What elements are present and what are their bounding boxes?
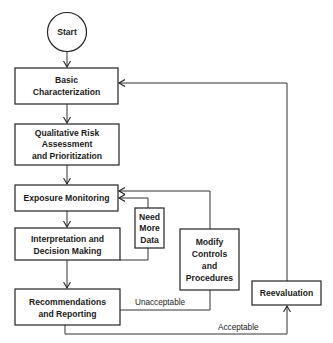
node-qualitative-line-1: Qualitative Risk bbox=[35, 128, 100, 138]
node-interpretation-decision: Interpretation and Decision Making bbox=[15, 228, 120, 260]
node-basic-line-1: Basic bbox=[55, 75, 78, 85]
node-needmore-line-2: More bbox=[139, 223, 160, 233]
node-modify-controls: Modify Controls and Procedures bbox=[180, 229, 239, 290]
node-need-more-data: Need More Data bbox=[135, 208, 164, 248]
node-exposure-monitoring: Exposure Monitoring bbox=[15, 185, 118, 211]
flowchart: Unacceptable Acceptable Start Basic Char… bbox=[0, 0, 333, 343]
node-start-label: Start bbox=[57, 27, 77, 37]
edge-interpretation-to-needmore bbox=[120, 248, 148, 260]
node-reevaluation: Reevaluation bbox=[252, 281, 321, 305]
node-needmore-line-1: Need bbox=[139, 212, 160, 222]
node-recommendations-reporting: Recommendations and Reporting bbox=[15, 289, 120, 325]
edge-label-acceptable: Acceptable bbox=[218, 323, 259, 332]
node-qualitative-line-2: Assessment bbox=[42, 139, 93, 149]
node-needmore-line-3: Data bbox=[140, 235, 159, 245]
edge-label-unacceptable: Unacceptable bbox=[135, 298, 186, 307]
node-qualitative-line-3: and Prioritization bbox=[32, 151, 102, 161]
node-modify-line-1: Modify bbox=[196, 237, 224, 247]
node-interpretation-line-2: Decision Making bbox=[34, 246, 102, 256]
node-recommendations-line-2: and Reporting bbox=[38, 309, 96, 319]
node-reevaluation-line-1: Reevaluation bbox=[260, 288, 314, 298]
node-modify-line-2: Controls bbox=[192, 249, 228, 259]
node-basic-line-2: Characterization bbox=[33, 87, 100, 97]
node-qualitative-risk-assessment: Qualitative Risk Assessment and Prioriti… bbox=[15, 124, 119, 165]
node-start: Start bbox=[48, 13, 87, 52]
edge-needmore-to-exposure bbox=[119, 198, 148, 208]
node-recommendations-line-1: Recommendations bbox=[29, 297, 106, 307]
node-modify-line-4: Procedures bbox=[186, 273, 234, 283]
node-basic-characterization: Basic Characterization bbox=[15, 68, 118, 104]
node-modify-line-3: and bbox=[202, 261, 217, 271]
node-interpretation-line-1: Interpretation and bbox=[31, 234, 104, 244]
node-exposure-line-1: Exposure Monitoring bbox=[24, 193, 110, 203]
